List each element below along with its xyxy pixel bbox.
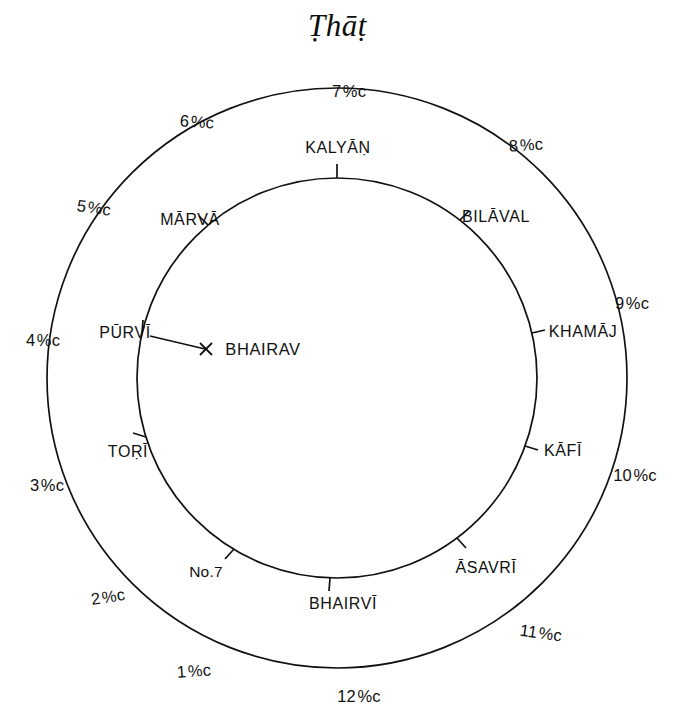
inner-ring-circle bbox=[137, 178, 537, 578]
that-diagram-page: Ṭhāṭ bbox=[0, 0, 675, 715]
inner-ring-ticks bbox=[133, 164, 545, 591]
tick-marva bbox=[199, 216, 208, 225]
tick-asavri bbox=[457, 538, 466, 548]
tick-bhairvi bbox=[329, 578, 330, 591]
purvi-leader-line bbox=[150, 336, 205, 349]
tick-bilaval bbox=[460, 211, 469, 220]
tick-no7 bbox=[225, 549, 234, 559]
concentric-circle-diagram bbox=[0, 0, 675, 715]
tick-khamaj bbox=[532, 330, 545, 333]
tick-kafi bbox=[525, 446, 538, 450]
tick-purvi bbox=[142, 320, 143, 333]
